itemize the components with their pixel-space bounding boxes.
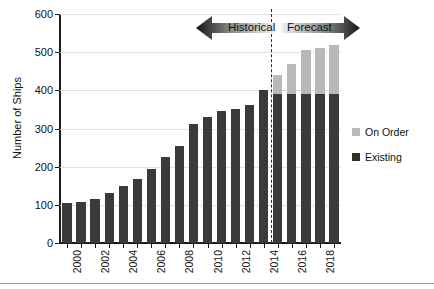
bar-2010 [203, 117, 212, 243]
legend-label-on-order: On Order [365, 126, 409, 138]
x-tick [264, 243, 265, 248]
bar-2001 [76, 202, 85, 243]
bar-2017 [301, 50, 310, 243]
x-tick-label: 2006 [155, 250, 167, 273]
x-tick [292, 243, 293, 248]
bar-2004 [119, 186, 128, 243]
y-tick-label: 500 [35, 47, 53, 58]
x-tick-label: 2016 [296, 250, 308, 273]
x-tick [137, 243, 138, 248]
bar-segment-existing [231, 109, 240, 243]
x-tick [81, 243, 82, 248]
x-tick [193, 243, 194, 248]
bar-2007 [161, 157, 170, 243]
bar-2016 [287, 64, 296, 243]
bar-2012 [231, 109, 240, 243]
bar-segment-existing [90, 199, 99, 243]
bar-segment-on-order [329, 45, 338, 95]
y-tick [55, 243, 60, 244]
x-tick [250, 243, 251, 248]
x-tick [278, 243, 279, 248]
forecast-divider-line [271, 9, 272, 243]
x-tick [236, 243, 237, 248]
legend-swatch-existing [352, 153, 360, 161]
y-tick-label: 0 [47, 238, 53, 249]
bar-segment-existing [105, 193, 114, 243]
bar-segment-existing [259, 90, 268, 243]
page-divider-rule [0, 283, 434, 284]
bar-2009 [189, 124, 198, 243]
bar-2006 [147, 169, 156, 243]
bar-2002 [90, 199, 99, 243]
x-tick [67, 243, 68, 248]
x-tick [222, 243, 223, 248]
legend-item-on-order: On Order [352, 126, 409, 138]
bar-2008 [175, 146, 184, 243]
x-tick-label: 2018 [324, 250, 336, 273]
bar-2013 [245, 105, 254, 243]
x-tick-label: 2008 [183, 250, 195, 273]
bar-segment-existing [147, 169, 156, 243]
legend-item-existing: Existing [352, 151, 409, 163]
bar-segment-existing [301, 94, 310, 243]
x-tick-label: 2012 [240, 250, 252, 273]
chart-container: Number of Ships 0100200300400500600 2000… [0, 0, 434, 289]
y-axis-title: Number of Ships [11, 63, 23, 173]
bar-segment-existing [76, 202, 85, 243]
x-tick [151, 243, 152, 248]
x-tick [179, 243, 180, 248]
x-tick [123, 243, 124, 248]
bar-2015 [273, 75, 282, 243]
bar-segment-existing [287, 94, 296, 243]
bar-segment-existing [217, 111, 226, 243]
x-tick [208, 243, 209, 248]
y-tick-label: 200 [35, 161, 53, 172]
x-tick [306, 243, 307, 248]
y-tick-label: 600 [35, 9, 53, 20]
x-tick-label: 2002 [99, 250, 111, 273]
x-tick-label: 2004 [127, 250, 139, 273]
bar-segment-existing [315, 94, 324, 243]
bar-segment-existing [189, 124, 198, 243]
bar-segment-on-order [273, 75, 282, 94]
bar-2011 [217, 111, 226, 243]
plot-area: 0100200300400500600 20002002200420062008… [60, 14, 341, 243]
x-tick-label: 2000 [71, 250, 83, 273]
bar-2018 [315, 48, 324, 243]
bar-segment-existing [62, 203, 71, 243]
bar-segment-on-order [315, 48, 324, 94]
bar-2005 [133, 179, 142, 243]
x-tick [95, 243, 96, 248]
bar-segment-on-order [287, 64, 296, 95]
bar-segment-existing [329, 94, 338, 243]
bar-segment-on-order [301, 50, 310, 94]
x-tick [165, 243, 166, 248]
x-tick [109, 243, 110, 248]
bar-segment-existing [175, 146, 184, 243]
bar-segment-existing [203, 117, 212, 243]
bar-2019 [329, 45, 338, 243]
x-tick [320, 243, 321, 248]
legend-label-existing: Existing [365, 151, 402, 163]
y-tick-label: 100 [35, 199, 53, 210]
chart-legend: On Order Existing [352, 126, 409, 176]
legend-swatch-on-order [352, 128, 360, 136]
bar-segment-existing [245, 105, 254, 243]
historical-band-label: Historical [228, 21, 275, 33]
y-tick-label: 400 [35, 85, 53, 96]
x-tick-label: 2010 [212, 250, 224, 273]
bar-segment-existing [273, 94, 282, 243]
x-tick-label: 2014 [268, 250, 280, 273]
bar-segment-existing [133, 179, 142, 243]
bar-segment-existing [119, 186, 128, 243]
bar-2003 [105, 193, 114, 243]
bar-2014 [259, 90, 268, 243]
bar-segment-existing [161, 157, 170, 243]
bar-series-layer [60, 14, 341, 243]
y-tick-label: 300 [35, 123, 53, 134]
x-tick [334, 243, 335, 248]
forecast-band-label: Forecast [287, 21, 332, 33]
bar-2000 [62, 203, 71, 243]
